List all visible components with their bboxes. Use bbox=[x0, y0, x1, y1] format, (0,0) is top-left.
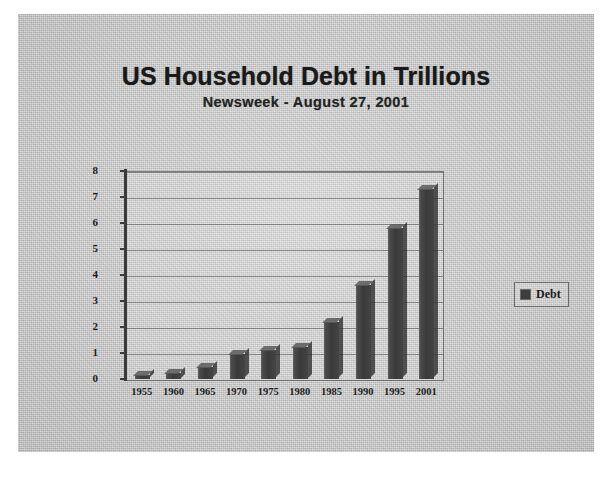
legend-label-debt: Debt bbox=[536, 287, 561, 302]
bar-1975 bbox=[261, 350, 276, 379]
scanned-page: US Household Debt in Trillions Newsweek … bbox=[18, 14, 594, 452]
y-tick-label-8: 8 bbox=[76, 165, 98, 176]
y-tick-mark-1 bbox=[120, 352, 127, 354]
x-tick-label-1990: 1990 bbox=[347, 386, 379, 397]
x-tick-label-2001: 2001 bbox=[410, 386, 442, 397]
bar-top-face-1955 bbox=[133, 371, 152, 376]
chart-legend: Debt bbox=[514, 282, 569, 307]
y-tick-mark-0 bbox=[120, 378, 127, 380]
x-tick-label-1975: 1975 bbox=[252, 386, 284, 397]
y-tick-label-4: 4 bbox=[76, 269, 98, 280]
bar-side-face-1980 bbox=[308, 341, 312, 378]
legend-swatch-debt bbox=[520, 289, 531, 300]
y-tick-label-3: 3 bbox=[76, 295, 98, 306]
x-tick-label-1985: 1985 bbox=[316, 386, 348, 397]
bar-1980 bbox=[293, 347, 308, 380]
y-tick-mark-6 bbox=[120, 222, 127, 224]
y-tick-mark-2 bbox=[120, 326, 127, 328]
x-tick-label-1965: 1965 bbox=[189, 386, 221, 397]
y-tick-label-2: 2 bbox=[76, 321, 98, 332]
gridline-7 bbox=[127, 198, 443, 199]
y-tick-label-5: 5 bbox=[76, 243, 98, 254]
bar-1970 bbox=[230, 354, 245, 379]
bar-top-face-1970 bbox=[228, 350, 247, 355]
bar-side-face-1985 bbox=[339, 316, 343, 377]
chart-title: US Household Debt in Trillions bbox=[18, 62, 594, 91]
bar-1985 bbox=[324, 322, 339, 379]
x-tick-label-1960: 1960 bbox=[158, 386, 190, 397]
y-tick-label-1: 1 bbox=[76, 347, 98, 358]
bar-1995 bbox=[388, 228, 403, 379]
bar-1960 bbox=[166, 373, 181, 380]
bar-side-face-1975 bbox=[276, 344, 280, 377]
y-tick-label-0: 0 bbox=[76, 373, 98, 384]
y-tick-label-7: 7 bbox=[76, 191, 98, 202]
chart-subtitle: Newsweek - August 27, 2001 bbox=[18, 94, 594, 110]
y-tick-mark-3 bbox=[120, 300, 127, 302]
x-tick-label-1995: 1995 bbox=[379, 386, 411, 397]
bar-1955 bbox=[135, 375, 150, 379]
y-tick-mark-4 bbox=[120, 274, 127, 276]
x-tick-label-1980: 1980 bbox=[284, 386, 316, 397]
bar-1965 bbox=[198, 367, 213, 379]
y-tick-mark-5 bbox=[120, 248, 127, 250]
y-tick-mark-7 bbox=[120, 196, 127, 198]
y-tick-label-6: 6 bbox=[76, 217, 98, 228]
bar-side-face-2001 bbox=[434, 183, 438, 377]
bar-2001 bbox=[419, 189, 434, 379]
x-tick-label-1970: 1970 bbox=[221, 386, 253, 397]
bar-chart: 012345678 195519601965197019751980198519… bbox=[100, 161, 450, 399]
bar-side-face-1995 bbox=[403, 222, 407, 377]
gridline-8 bbox=[127, 172, 443, 173]
bar-side-face-1970 bbox=[245, 348, 249, 377]
bar-side-face-1990 bbox=[371, 279, 375, 377]
x-tick-label-1955: 1955 bbox=[126, 386, 158, 397]
bar-1990 bbox=[356, 285, 371, 379]
y-tick-mark-8 bbox=[120, 170, 127, 172]
bar-top-face-1995 bbox=[386, 224, 405, 229]
